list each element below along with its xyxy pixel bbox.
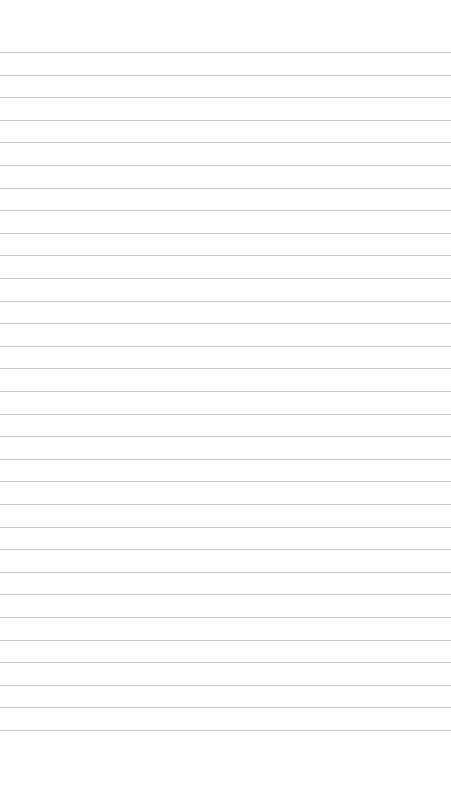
ruled-line [0,346,451,347]
ruled-line [0,730,451,731]
ruled-line [0,527,451,528]
ruled-line [0,504,451,505]
ruled-line [0,459,451,460]
ruled-line [0,188,451,189]
ruled-line [0,436,451,437]
ruled-line [0,323,451,324]
ruled-line [0,572,451,573]
ruled-line [0,481,451,482]
ruled-line [0,594,451,595]
ruled-line [0,368,451,369]
ruled-line [0,75,451,76]
ruled-line [0,142,451,143]
ruled-line [0,707,451,708]
ruled-line [0,278,451,279]
ruled-line [0,255,451,256]
ruled-line [0,233,451,234]
lined-paper [0,0,451,786]
ruled-line [0,662,451,663]
ruled-line [0,97,451,98]
ruled-line [0,165,451,166]
ruled-line [0,685,451,686]
ruled-line [0,120,451,121]
ruled-line [0,52,451,53]
ruled-line [0,414,451,415]
ruled-line [0,301,451,302]
ruled-line [0,391,451,392]
ruled-line [0,210,451,211]
ruled-line [0,617,451,618]
ruled-line [0,640,451,641]
ruled-line [0,549,451,550]
